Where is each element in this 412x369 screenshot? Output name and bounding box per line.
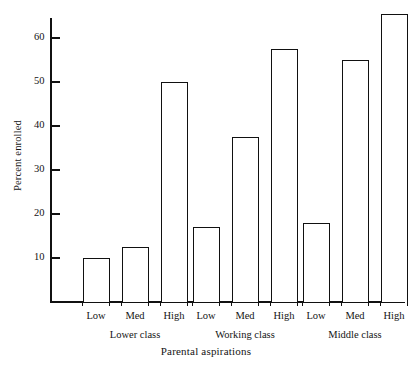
category-label-working-class-high: High [274,310,295,322]
y-tick-40: 40 [52,125,60,126]
y-axis-line [50,18,52,303]
category-label-working-class-med: Med [235,310,254,322]
x-tick [187,301,188,306]
bar-lower-class-low [83,258,110,302]
x-tick [341,301,342,306]
y-tick-label-30: 30 [34,162,45,175]
category-label-middle-class-low: Low [306,310,325,322]
group-label-middle-class: Middle class [328,329,381,341]
bar-lower-class-high [161,82,188,302]
x-tick [297,301,298,306]
y-tick-30: 30 [52,169,60,170]
x-tick [329,301,330,306]
category-label-working-class-low: Low [196,310,215,322]
group-label-working-class: Working class [215,329,275,341]
x-tick [148,301,149,306]
y-tick-label-60: 60 [34,30,45,43]
group-label-lower-class: Lower class [110,329,160,341]
x-tick [109,301,110,306]
x-tick [368,301,369,306]
y-tick-label-40: 40 [34,118,45,131]
x-tick [407,301,408,306]
y-tick-10: 10 [52,257,60,258]
x-tick [380,301,381,306]
category-label-lower-class-low: Low [86,310,105,322]
x-tick [160,301,161,306]
x-tick [258,301,259,306]
y-tick-label-50: 50 [34,74,45,87]
bar-middle-class-low [303,223,330,302]
x-tick [270,301,271,306]
x-tick [82,301,83,306]
y-axis-title: Percent enrolled [12,86,23,226]
x-tick [192,301,193,306]
y-tick-label-20: 20 [34,206,45,219]
x-axis-title: Parental aspirations [0,345,412,357]
x-tick [302,301,303,306]
bar-working-class-med [232,137,259,302]
category-label-lower-class-med: Med [125,310,144,322]
y-tick-label-10: 10 [34,250,45,263]
bar-working-class-low [193,227,220,302]
y-tick-60: 60 [52,37,60,38]
y-tick-50: 50 [52,81,60,82]
category-label-lower-class-high: High [164,310,185,322]
category-label-middle-class-high: High [384,310,405,322]
x-tick [121,301,122,306]
bar-chart-figure: Percent enrolled 102030405060 LowMedHigh… [0,0,412,369]
bar-working-class-high [271,49,298,302]
plot-area: 102030405060 [50,18,405,303]
bar-lower-class-med [122,247,149,302]
bar-middle-class-high [381,14,408,302]
y-tick-20: 20 [52,213,60,214]
category-label-middle-class-med: Med [345,310,364,322]
x-tick [231,301,232,306]
x-tick [219,301,220,306]
bar-middle-class-med [342,60,369,302]
